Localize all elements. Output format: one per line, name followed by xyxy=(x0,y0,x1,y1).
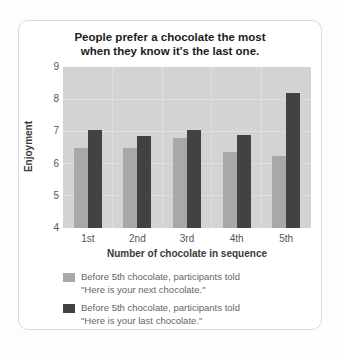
bar-last-4th xyxy=(237,135,251,228)
legend-next-line-1: Before 5th chocolate, participants told xyxy=(81,271,240,284)
x-axis-tick-label-5th: 5th xyxy=(266,233,306,245)
legend-text-next: Before 5th chocolate, participants told … xyxy=(81,271,240,296)
bar-last-3rd xyxy=(187,130,201,228)
legend-item-next: Before 5th chocolate, participants told … xyxy=(63,271,311,296)
chart-title: People prefer a chocolate the most when … xyxy=(19,30,321,58)
x-axis-title: Number of chocolate in sequence xyxy=(63,248,311,259)
y-axis-tick-label-7: 7 xyxy=(35,125,59,137)
gridline-h-8 xyxy=(63,99,311,100)
bar-last-5th xyxy=(286,93,300,228)
legend-last-line-2: "Here is your last chocolate." xyxy=(81,315,240,328)
legend-next-line-2: "Here is your next chocolate." xyxy=(81,284,240,297)
legend: Before 5th chocolate, participants told … xyxy=(63,271,311,333)
legend-text-last: Before 5th chocolate, participants told … xyxy=(81,302,240,327)
bar-next-4th xyxy=(223,152,237,228)
legend-swatch-next xyxy=(63,273,75,282)
x-axis-tick-label-4th: 4th xyxy=(217,233,257,245)
x-axis-tick-label-3rd: 3rd xyxy=(167,233,207,245)
bar-next-5th xyxy=(272,156,286,228)
x-axis-tick-label-1st: 1st xyxy=(68,233,108,245)
y-axis-tick-label-9: 9 xyxy=(35,61,59,73)
legend-last-line-1: Before 5th chocolate, participants told xyxy=(81,302,240,315)
legend-item-last: Before 5th chocolate, participants told … xyxy=(63,302,311,327)
bar-last-2nd xyxy=(137,136,151,228)
chart-title-line-1: People prefer a chocolate the most xyxy=(19,30,321,44)
plot-area xyxy=(63,67,311,228)
legend-swatch-last xyxy=(63,304,75,313)
bar-next-2nd xyxy=(123,148,137,229)
chart-title-line-2: when they know it's the last one. xyxy=(19,44,321,58)
y-axis-tick-label-6: 6 xyxy=(35,158,59,170)
y-axis-tick-label-4: 4 xyxy=(35,222,59,234)
gridline-v-2 xyxy=(162,67,163,228)
bar-last-1st xyxy=(88,130,102,228)
bar-next-1st xyxy=(74,148,88,229)
chart-card: People prefer a chocolate the most when … xyxy=(18,20,322,330)
x-axis-tick-label-2nd: 2nd xyxy=(117,233,157,245)
page-background: People prefer a chocolate the most when … xyxy=(0,0,338,358)
y-axis-tick-label-8: 8 xyxy=(35,93,59,105)
gridline-v-3 xyxy=(211,67,212,228)
y-axis-title: Enjoyment xyxy=(23,112,34,182)
gridline-v-4 xyxy=(261,67,262,228)
y-axis-tick-label-5: 5 xyxy=(35,190,59,202)
bar-next-3rd xyxy=(173,138,187,228)
gridline-v-1 xyxy=(112,67,113,228)
